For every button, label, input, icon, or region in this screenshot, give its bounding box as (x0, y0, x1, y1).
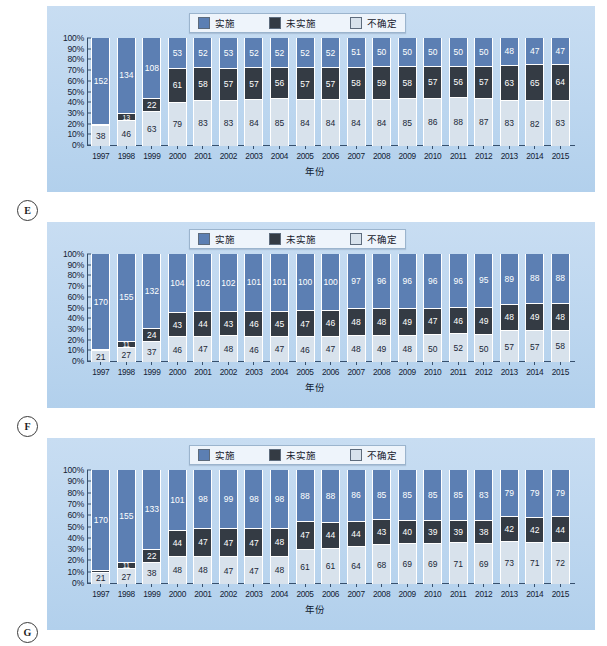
stacked-bar[interactable]: 884761 (296, 470, 315, 584)
bar-segment: 47 (526, 38, 543, 64)
stacked-bar[interactable]: 994747 (219, 470, 238, 584)
stacked-bar[interactable]: 505885 (398, 38, 417, 146)
x-tick-label: 2009 (394, 589, 420, 599)
legend-item-not_implemented[interactable]: 未实施 (269, 16, 316, 30)
stacked-bar[interactable]: 476483 (551, 38, 570, 146)
stacked-bar[interactable]: 1024447 (193, 254, 212, 362)
bar-column: 964948 (394, 254, 420, 362)
stacked-bar[interactable]: 1322437 (142, 254, 161, 362)
x-tick-mark (458, 584, 459, 587)
legend-item-uncertain[interactable]: 不确定 (350, 232, 397, 246)
stacked-bar[interactable]: 794273 (500, 470, 519, 584)
stacked-bar[interactable]: 1551127 (117, 470, 136, 584)
stacked-bar[interactable]: 984747 (244, 470, 263, 584)
x-tick-mark (432, 584, 433, 587)
stacked-bar[interactable]: 964652 (449, 254, 468, 362)
stacked-bar[interactable]: 1014547 (270, 254, 289, 362)
x-axis-labels: 1997199819992000200120022003200420052006… (88, 367, 573, 377)
x-tick-mark (381, 362, 382, 365)
x-tick-mark (253, 584, 254, 587)
x-tick-mark (177, 584, 178, 587)
stacked-bar[interactable]: 476582 (525, 38, 544, 146)
stacked-bar[interactable]: 853969 (423, 470, 442, 584)
bar-column: 794472 (548, 470, 574, 584)
stacked-bar[interactable]: 505786 (423, 38, 442, 146)
stacked-bar[interactable]: 1014646 (244, 254, 263, 362)
stacked-bar[interactable]: 1341346 (117, 38, 136, 146)
x-tick-label: 2014 (522, 151, 548, 161)
stacked-bar[interactable]: 884957 (525, 254, 544, 362)
chart-panel-e: 实施未实施不确定100%90%80%70%60%50%40%30%20%10%0… (47, 6, 595, 192)
stacked-bar[interactable]: 964948 (398, 254, 417, 362)
bar-column: 535783 (216, 38, 242, 146)
stacked-bar[interactable]: 1004746 (296, 254, 315, 362)
stacked-bar[interactable]: 964750 (423, 254, 442, 362)
stacked-bar[interactable]: 17021 (91, 254, 110, 362)
bar-segment: 21 (92, 572, 109, 584)
stacked-bar[interactable]: 505787 (474, 38, 493, 146)
stacked-bar[interactable]: 864464 (347, 470, 366, 584)
stacked-bar[interactable]: 794271 (525, 470, 544, 584)
bar-column: 486383 (497, 38, 523, 146)
stacked-bar[interactable]: 525883 (193, 38, 212, 146)
legend-item-uncertain[interactable]: 不确定 (350, 448, 397, 462)
stacked-bar[interactable]: 833869 (474, 470, 493, 584)
stacked-bar[interactable]: 505984 (372, 38, 391, 146)
bar-segment: 83 (194, 100, 211, 146)
bar-segment: 102 (194, 254, 211, 311)
stacked-bar[interactable]: 964849 (372, 254, 391, 362)
bar-segment: 47 (245, 556, 262, 584)
legend-item-implemented[interactable]: 实施 (198, 448, 235, 462)
stacked-bar[interactable]: 894857 (500, 254, 519, 362)
stacked-bar[interactable]: 1004647 (321, 254, 340, 362)
bar-segment: 47 (220, 528, 237, 556)
figure-page: E实施未实施不确定100%90%80%70%60%50%40%30%20%10%… (0, 0, 607, 646)
x-axis-labels: 1997199819992000200120022003200420052006… (88, 151, 573, 161)
bar-segment: 22 (143, 549, 160, 562)
legend-item-uncertain[interactable]: 不确定 (350, 16, 397, 30)
panel-label-g: G (17, 622, 38, 643)
bar-column: 515884 (343, 38, 369, 146)
bar-segment: 134 (118, 38, 135, 113)
stacked-bar[interactable]: 525784 (296, 38, 315, 146)
stacked-bar[interactable]: 1024348 (219, 254, 238, 362)
legend-swatch-uncertain (350, 449, 362, 461)
stacked-bar[interactable]: 525784 (321, 38, 340, 146)
legend-item-not_implemented[interactable]: 未实施 (269, 232, 316, 246)
legend-item-implemented[interactable]: 实施 (198, 232, 235, 246)
stacked-bar[interactable]: 1332238 (142, 470, 161, 584)
stacked-bar[interactable]: 954950 (474, 254, 493, 362)
stacked-bar[interactable]: 853971 (449, 470, 468, 584)
bar-column: 884858 (548, 254, 574, 362)
stacked-bar[interactable]: 15238 (91, 38, 110, 146)
legend-item-implemented[interactable]: 实施 (198, 16, 235, 30)
stacked-bar[interactable]: 17021 (91, 470, 110, 584)
stacked-bar[interactable]: 884858 (551, 254, 570, 362)
y-tick-label: 40% (68, 313, 84, 323)
x-tick-label: 2000 (165, 151, 191, 161)
stacked-bar[interactable]: 535783 (219, 38, 238, 146)
stacked-bar[interactable]: 974848 (347, 254, 366, 362)
bar-segment: 69 (399, 543, 416, 584)
stacked-bar[interactable]: 1014448 (168, 470, 187, 584)
stacked-bar[interactable]: 505688 (449, 38, 468, 146)
stacked-bar[interactable]: 984748 (193, 470, 212, 584)
stacked-bar[interactable]: 536179 (168, 38, 187, 146)
stacked-bar[interactable]: 1044346 (168, 254, 187, 362)
stacked-bar[interactable]: 525784 (244, 38, 263, 146)
x-tick-cell (292, 146, 318, 149)
stacked-bar[interactable]: 794472 (551, 470, 570, 584)
stacked-bar[interactable]: 884461 (321, 470, 340, 584)
stacked-bar[interactable]: 515884 (347, 38, 366, 146)
bar-segment: 42 (526, 517, 543, 542)
stacked-bar[interactable]: 525685 (270, 38, 289, 146)
stacked-bar[interactable]: 854069 (398, 470, 417, 584)
stacked-bar[interactable]: 486383 (500, 38, 519, 146)
stacked-bar[interactable]: 1551127 (117, 254, 136, 362)
stacked-bar[interactable]: 854368 (372, 470, 391, 584)
stacked-bar[interactable]: 984848 (270, 470, 289, 584)
legend-item-not_implemented[interactable]: 未实施 (269, 448, 316, 462)
stacked-bar[interactable]: 1082263 (142, 38, 161, 146)
bar-segment: 56 (271, 67, 288, 98)
bar-segment: 47 (552, 38, 569, 64)
